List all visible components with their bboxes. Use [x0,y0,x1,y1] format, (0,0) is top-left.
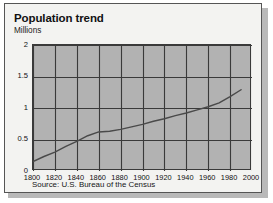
page-title: Population trend [14,12,104,24]
y-axis-tick-label: 1.5 [6,71,28,80]
source-note: Source: U.S. Bureau of the Census [32,180,155,189]
y-axis-tick-label: 1 [6,103,28,112]
y-axis-tick-label: 2 [6,40,28,49]
chart-card: Population trend Millions 00.511.52 1800… [4,3,262,193]
plot-area-wrapper: 00.511.52 180018201840186018801900192019… [32,44,251,170]
chart-unit-label: Millions [14,26,41,35]
x-axis-tick-label: 2000 [236,173,266,182]
chart-figure: Population trend Millions 00.511.52 1800… [0,0,273,203]
line-chart-svg [33,45,252,171]
plot-area [32,44,251,170]
series-line-population [33,90,241,162]
grid-horizontal [33,46,252,172]
y-axis-tick-label: 0.5 [6,134,28,143]
